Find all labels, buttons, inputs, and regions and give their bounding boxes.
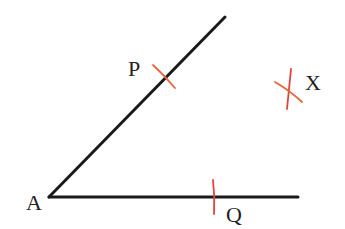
angle-construction-diagram: A P Q X: [0, 0, 345, 229]
label-Q: Q: [226, 202, 242, 227]
label-A: A: [26, 190, 42, 215]
label-P: P: [128, 56, 140, 81]
label-X: X: [305, 70, 321, 95]
